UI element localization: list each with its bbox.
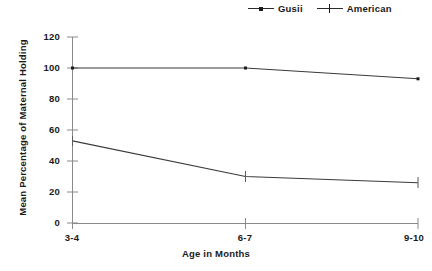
x-tick-label-9-10: 9-10 xyxy=(392,233,432,243)
y-axis-title: Mean Percentage of Maternal Holding xyxy=(17,28,28,228)
x-axis-title: Age in Months xyxy=(0,248,432,259)
series-american xyxy=(73,136,419,188)
chart-plot-area xyxy=(0,0,432,271)
chart-svg xyxy=(0,0,432,271)
x-tick-label-3-4: 3-4 xyxy=(50,233,94,243)
data-point-gusii-0 xyxy=(71,67,74,70)
y-tick-label-20: 20 xyxy=(26,187,60,197)
y-tick-label-100: 100 xyxy=(26,63,60,73)
x-tick-label-6-7: 6-7 xyxy=(223,233,267,243)
series-gusii xyxy=(71,67,420,81)
data-point-gusii-1 xyxy=(244,67,247,70)
y-tick-label-120: 120 xyxy=(26,32,60,42)
y-tick-label-0: 0 xyxy=(26,218,60,228)
data-point-gusii-2 xyxy=(417,77,420,80)
y-tick-label-60: 60 xyxy=(26,125,60,135)
y-tick-label-80: 80 xyxy=(26,94,60,104)
y-tick-label-40: 40 xyxy=(26,156,60,166)
chart-figure: Gusii American xyxy=(0,0,432,271)
